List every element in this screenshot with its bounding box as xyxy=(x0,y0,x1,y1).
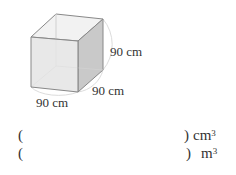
open-paren: ( xyxy=(18,126,23,144)
unit-text: cm xyxy=(193,127,211,143)
open-paren: ( xyxy=(18,144,23,162)
width-label: 90 cm xyxy=(36,96,68,109)
close-paren: ) xyxy=(184,126,189,144)
exponent: 3 xyxy=(213,146,218,156)
answer-row-cm3: ( ) cm3 xyxy=(0,126,236,144)
close-paren: ) xyxy=(186,144,191,162)
front-face xyxy=(31,37,78,92)
unit-cm3: cm3 xyxy=(193,126,216,144)
depth-label: 90 cm xyxy=(92,84,124,97)
exponent: 3 xyxy=(211,128,216,138)
height-label: 90 cm xyxy=(110,45,142,58)
unit-text: m xyxy=(201,145,213,161)
answer-row-m3: ( ) m3 xyxy=(0,144,236,162)
cube-figure: 90 cm 90 cm 90 cm xyxy=(0,0,236,120)
unit-m3: m3 xyxy=(201,144,217,162)
